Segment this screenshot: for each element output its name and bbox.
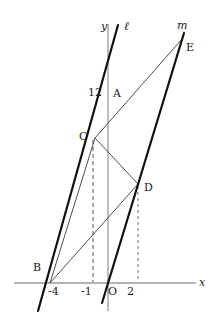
segment-b-d xyxy=(50,184,138,283)
y-value-label-12: 12 xyxy=(88,87,102,98)
line-m xyxy=(102,33,184,303)
point-label-c: C xyxy=(79,131,87,142)
point-label-b: B xyxy=(33,262,41,273)
y-axis-label: y xyxy=(101,21,107,32)
geometry-diagram: y ℓ m x A B C D E 12 -4 -1 O 2 xyxy=(0,0,218,321)
line-l-label: ℓ xyxy=(124,20,129,32)
x-tick-label-neg4: -4 xyxy=(48,286,59,297)
x-tick-label-neg1: -1 xyxy=(81,286,92,297)
line-m-label: m xyxy=(177,20,187,31)
x-axis-label: x xyxy=(199,277,205,288)
point-label-e: E xyxy=(186,42,194,53)
line-l xyxy=(38,25,118,311)
x-tick-label-2: 2 xyxy=(127,286,134,297)
point-label-a: A xyxy=(113,88,121,99)
point-label-d: D xyxy=(144,182,153,193)
segment-c-d xyxy=(95,138,138,184)
origin-label: O xyxy=(108,286,117,297)
